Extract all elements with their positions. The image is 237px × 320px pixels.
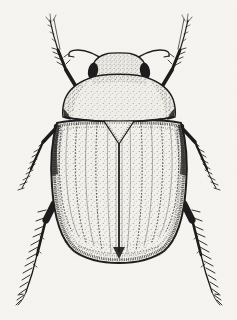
illustration-page: Beetle illustration xyxy=(0,0,237,320)
beetle-illustration: Beetle illustration xyxy=(0,0,237,320)
paper-grain xyxy=(0,0,237,320)
